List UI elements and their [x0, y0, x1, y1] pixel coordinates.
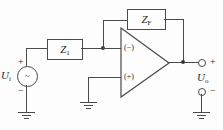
opamp-triangle [120, 27, 172, 99]
wire-source-to-z1 [26, 48, 47, 49]
wire-to-zf-left [103, 20, 128, 21]
wire-noninverting-to-gnd [88, 77, 89, 102]
ac-source-glyph: ~ [25, 72, 30, 81]
source-label: Ui [1, 70, 11, 83]
wire-inverting-input [103, 48, 121, 49]
ground-bar-2 [197, 115, 206, 116]
output-terminal-positive[interactable] [198, 59, 206, 67]
ground-bar-1 [80, 102, 97, 103]
output-label-text: U [197, 71, 205, 83]
z1-sub: 1 [66, 49, 70, 57]
ground-bar-2 [84, 105, 93, 106]
feedback-impedance-label: ZF [141, 13, 151, 27]
ground-bar-1 [18, 112, 35, 113]
wire-output-neg-to-gnd [201, 94, 202, 112]
wire-noninverting-input [88, 77, 121, 78]
ground-bar-3 [24, 118, 29, 119]
wire-zf-to-right [164, 19, 184, 20]
output-node [181, 60, 185, 64]
input-impedance-box: Z1 [47, 39, 83, 60]
output-plus-sign: + [210, 57, 216, 67]
source-minus-sign: − [18, 86, 24, 96]
wire-source-bottom [26, 85, 27, 113]
voltage-source: ~ [17, 66, 38, 87]
zf-sub: F [148, 19, 152, 27]
input-impedance-label: Z1 [60, 43, 70, 57]
opamp-inverting-label: (−) [124, 44, 134, 52]
source-plus-sign: + [18, 57, 24, 67]
wire-node-up [103, 20, 104, 48]
ground-bar-3 [199, 118, 204, 119]
source-label-text: U [1, 69, 9, 81]
opamp-noninverting-label: (+) [124, 73, 134, 81]
source-label-sub: i [9, 75, 11, 83]
circuit-diagram: ~ Ui + − Z1 ZF (−) (+) [0, 0, 223, 130]
ground-bar-2 [22, 115, 31, 116]
ground-bar-1 [193, 112, 210, 113]
wire-feedback-down [183, 19, 184, 63]
output-label: Uo [197, 72, 208, 85]
wire-source-top [26, 48, 27, 66]
output-terminal-negative[interactable] [198, 88, 206, 96]
output-minus-sign: − [210, 86, 216, 96]
ground-bar-3 [86, 108, 91, 109]
output-label-sub: o [205, 77, 209, 85]
